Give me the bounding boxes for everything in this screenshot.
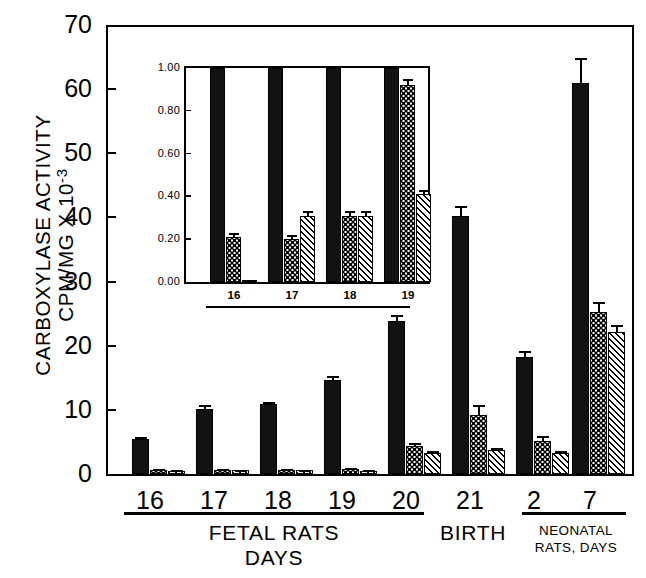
inset-y-tick-label: 0.40 bbox=[140, 190, 180, 201]
inset-x-tick-label-16: 16 bbox=[212, 290, 256, 302]
rule-neonatal-rats bbox=[522, 512, 626, 515]
bar-solid-black-19 bbox=[324, 380, 341, 474]
x-tick-label-16: 16 bbox=[120, 488, 180, 513]
inset-bar-dotted-19 bbox=[400, 85, 415, 282]
y-tick-label: 30 bbox=[46, 269, 92, 294]
bar-hatched-2 bbox=[552, 453, 569, 474]
error-cap-solid-black-19 bbox=[327, 376, 339, 378]
caption-neonatal-line2: RATS, DAYS bbox=[516, 540, 636, 557]
caption-fetal-rats: FETAL RATS bbox=[124, 521, 424, 546]
inset-bar-hatched-19 bbox=[416, 194, 431, 282]
inset-bar-solid-black-17 bbox=[268, 68, 283, 282]
plot-top-edge bbox=[106, 25, 634, 27]
y-tick-mark bbox=[107, 345, 116, 347]
x-tick-label-19: 19 bbox=[312, 488, 372, 513]
bar-solid-black-20 bbox=[388, 321, 405, 474]
error-cap-solid-black-17 bbox=[199, 405, 211, 407]
inset-y-tick-label: 0.80 bbox=[140, 105, 180, 116]
y-tick-label: 60 bbox=[46, 76, 92, 101]
x-tick-label-21: 21 bbox=[440, 488, 500, 513]
x-tick-label-17: 17 bbox=[184, 488, 244, 513]
inset-error-cap-dotted-18 bbox=[345, 211, 355, 213]
error-cap-solid-black-2 bbox=[519, 351, 531, 353]
inset-error-cap-dotted-16 bbox=[229, 233, 239, 235]
plot-right-edge bbox=[632, 25, 634, 476]
caption-neonatal-line1: NEONATAL bbox=[516, 523, 636, 540]
error-cap-dotted-21 bbox=[473, 405, 485, 407]
error-cap-dotted-18 bbox=[281, 469, 293, 471]
bar-hatched-7 bbox=[608, 332, 625, 474]
error-cap-dotted-19 bbox=[345, 468, 357, 470]
inset-y-tick-mark bbox=[186, 110, 191, 112]
x-axis-line bbox=[106, 474, 632, 476]
inset-bar-dotted-17 bbox=[284, 239, 299, 282]
inset-x-tick-label-17: 17 bbox=[270, 290, 314, 302]
inset-error-cap-dotted-19 bbox=[403, 79, 413, 81]
y-tick-label: 50 bbox=[46, 140, 92, 165]
bar-hatched-20 bbox=[424, 453, 441, 474]
inset-bar-dotted-16 bbox=[226, 237, 241, 282]
bar-dotted-2 bbox=[534, 441, 551, 474]
error-cap-hatched-16 bbox=[171, 470, 183, 472]
bar-hatched-21 bbox=[488, 450, 505, 474]
y-tick-mark bbox=[107, 88, 116, 90]
error-cap-hatched-20 bbox=[427, 451, 439, 453]
error-cap-solid-black-7 bbox=[575, 58, 587, 60]
y-tick-mark bbox=[107, 216, 116, 218]
inset-group-rule bbox=[206, 306, 410, 308]
inset-bar-solid-black-18 bbox=[326, 68, 341, 282]
inset-y-tick-mark bbox=[186, 195, 191, 197]
error-cap-dotted-20 bbox=[409, 443, 421, 445]
error-cap-dotted-2 bbox=[537, 436, 549, 438]
y-tick-mark bbox=[107, 152, 116, 154]
inset-error-cap-hatched-19 bbox=[419, 190, 429, 192]
bar-dotted-20 bbox=[406, 446, 423, 474]
inset-error-cap-hatched-17 bbox=[303, 211, 313, 213]
inset-y-tick-label: 0.60 bbox=[140, 148, 180, 159]
x-tick-label-2: 2 bbox=[504, 488, 564, 513]
inset-bar-hatched-18 bbox=[358, 216, 373, 282]
error-cap-hatched-17 bbox=[235, 470, 247, 472]
error-cap-hatched-2 bbox=[555, 451, 567, 453]
error-cap-dotted-16 bbox=[153, 469, 165, 471]
y-tick-label: 10 bbox=[46, 397, 92, 422]
inset-x-tick-label-19: 19 bbox=[386, 290, 430, 302]
bar-solid-black-16 bbox=[132, 439, 149, 474]
bar-solid-black-7 bbox=[572, 83, 589, 474]
bar-dotted-21 bbox=[470, 415, 487, 474]
error-cap-solid-black-16 bbox=[135, 437, 147, 439]
y-tick-label: 0 bbox=[46, 461, 92, 486]
bar-chart-figure: CARBOXYLASE ACTIVITY CPM/MG X 10-3 01020… bbox=[0, 0, 646, 578]
x-tick-label-7: 7 bbox=[560, 488, 620, 513]
error-cap-hatched-7 bbox=[611, 325, 623, 327]
error-cap-hatched-21 bbox=[491, 448, 503, 450]
rule-fetal-rats bbox=[124, 512, 424, 515]
error-cap-solid-black-20 bbox=[391, 315, 403, 317]
error-cap-solid-black-18 bbox=[263, 402, 275, 404]
y-tick-label: 40 bbox=[46, 204, 92, 229]
bar-solid-black-2 bbox=[516, 357, 533, 474]
bar-dotted-7 bbox=[590, 312, 607, 474]
y-tick-mark bbox=[107, 409, 116, 411]
inset-y-tick-label: 1.00 bbox=[140, 62, 180, 73]
inset-bar-solid-black-19 bbox=[384, 68, 399, 282]
y-axis-title-exponent: -3 bbox=[53, 168, 70, 183]
inset-error-cap-dotted-17 bbox=[287, 235, 297, 237]
x-tick-label-18: 18 bbox=[248, 488, 308, 513]
y-tick-label: 20 bbox=[46, 333, 92, 358]
x-tick-label-20: 20 bbox=[376, 488, 436, 513]
inset-error-cap-hatched-18 bbox=[361, 211, 371, 213]
inset-bar-hatched-17 bbox=[300, 216, 315, 282]
caption-days: DAYS bbox=[124, 546, 424, 571]
y-tick-label: 70 bbox=[46, 12, 92, 37]
caption-birth: BIRTH bbox=[418, 521, 528, 546]
inset-y-tick-mark bbox=[186, 238, 191, 240]
error-cap-hatched-18 bbox=[299, 470, 311, 472]
bar-solid-black-18 bbox=[260, 404, 277, 474]
error-bar-solid-black-7 bbox=[580, 58, 582, 82]
bar-solid-black-21 bbox=[452, 216, 469, 474]
inset-y-tick-label: 0.00 bbox=[140, 276, 180, 287]
inset-chart: 0.000.200.400.600.801.0016171819 bbox=[184, 66, 430, 284]
inset-bar-hatched-16 bbox=[242, 280, 257, 283]
inset-x-tick-label-18: 18 bbox=[328, 290, 372, 302]
